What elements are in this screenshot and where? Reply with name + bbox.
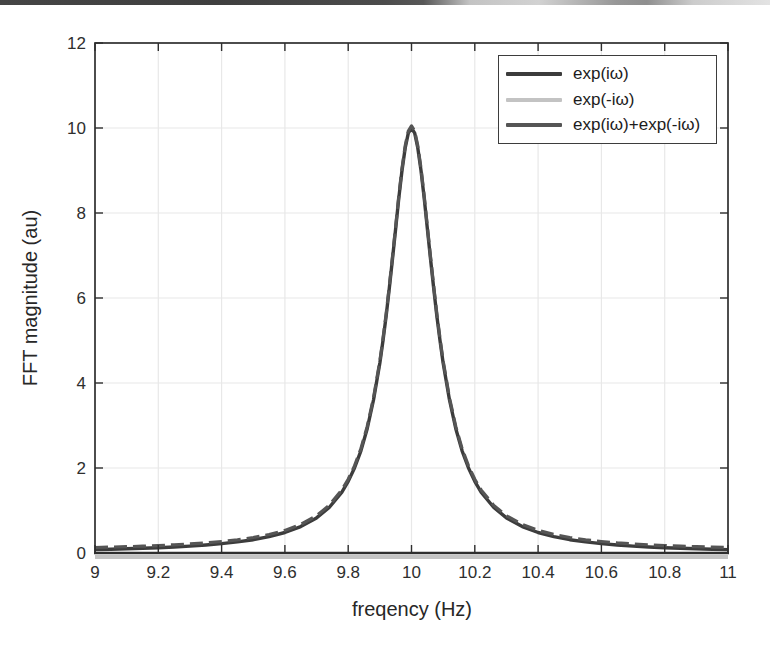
legend-entry-label: exp(-iω) bbox=[573, 90, 634, 110]
legend-entry: exp(iω)+exp(-iω) bbox=[499, 115, 716, 135]
legend-line-swatch bbox=[506, 72, 562, 76]
x-tick-label: 9.4 bbox=[210, 563, 234, 582]
legend-entry: exp(iω) bbox=[499, 64, 716, 84]
x-tick-label: 11 bbox=[719, 563, 737, 582]
y-tick-label: 10 bbox=[67, 119, 86, 138]
x-tick-label: 10 bbox=[402, 563, 421, 582]
x-tick-label: 10.8 bbox=[648, 563, 681, 582]
y-tick-label: 0 bbox=[77, 544, 86, 563]
legend-entry-label: exp(iω) bbox=[573, 64, 629, 84]
x-tick-label: 10.2 bbox=[458, 563, 491, 582]
y-axis-label: FFT magnitude (au) bbox=[19, 210, 42, 386]
legend-entry-label: exp(iω)+exp(-iω) bbox=[573, 115, 700, 135]
x-tick-label: 10.4 bbox=[522, 563, 555, 582]
legend-entry: exp(-iω) bbox=[499, 90, 716, 110]
y-tick-label: 2 bbox=[77, 459, 86, 478]
x-axis-label: freqency (Hz) bbox=[352, 598, 472, 621]
x-tick-label: 9.6 bbox=[273, 563, 297, 582]
y-tick-label: 12 bbox=[67, 34, 86, 53]
x-tick-label: 9.8 bbox=[336, 563, 360, 582]
y-tick-label: 8 bbox=[77, 204, 86, 223]
legend-line-swatch bbox=[506, 98, 562, 102]
y-tick-label: 4 bbox=[77, 374, 86, 393]
legend-box: exp(iω)exp(-iω)exp(iω)+exp(-iω) bbox=[498, 55, 717, 144]
x-tick-label: 9 bbox=[90, 563, 99, 582]
x-tick-label: 9.2 bbox=[146, 563, 170, 582]
legend-line-swatch bbox=[506, 123, 562, 127]
x-tick-label: 10.6 bbox=[585, 563, 618, 582]
y-tick-label: 6 bbox=[77, 289, 86, 308]
